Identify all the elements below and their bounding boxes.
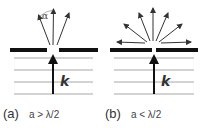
- panel-b-rays: [117, 8, 191, 43]
- panel-a-condition: a > λ/2: [29, 109, 59, 120]
- panel-a-angle-label: α: [42, 11, 48, 21]
- panel-b-caption: (b)a < λ/2: [105, 106, 161, 123]
- panel-a-k-arrowhead: [48, 54, 58, 64]
- panel-b-k-arrowhead: [149, 54, 159, 64]
- panel-b-screen: [110, 48, 198, 52]
- panel-a-screen: [10, 48, 98, 52]
- panel-a-tag: (a): [3, 106, 19, 122]
- panel-a: [10, 9, 98, 94]
- panel-b-tag: (b): [105, 106, 121, 122]
- panel-a-caption: (a)a > λ/2: [3, 106, 59, 123]
- panel-a-k-label: k: [60, 74, 69, 88]
- panel-b: [110, 8, 198, 94]
- panel-b-condition: a < λ/2: [131, 109, 161, 120]
- diffraction-figure: α k k (a)a > λ/2 (b)a < λ/2: [0, 0, 205, 128]
- panel-b-k-label: k: [161, 74, 170, 88]
